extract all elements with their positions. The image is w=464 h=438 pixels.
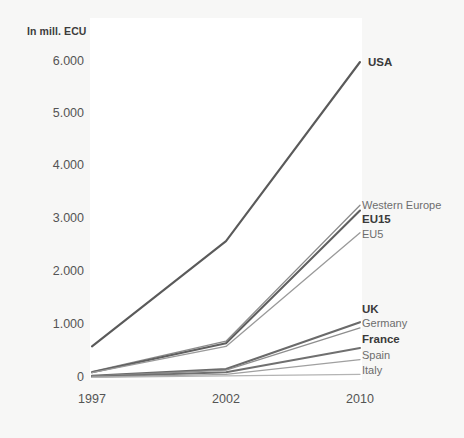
series-label-layer: USAWestern EuropeEU15EU5UKGermanyFranceS… [0,0,464,438]
series-label-uk: UK [362,304,379,316]
series-label-france: France [362,334,400,346]
series-label-western-europe: Western Europe [362,200,441,211]
series-label-spain: Spain [362,350,390,361]
series-label-italy: Italy [362,365,382,376]
series-label-usa: USA [368,57,392,69]
series-label-eu5: EU5 [362,229,383,240]
series-label-eu15: EU15 [362,214,391,226]
series-label-germany: Germany [362,318,407,329]
chart-container: In mill. ECU 6.0005.0004.0003.0002.0001.… [0,0,464,438]
